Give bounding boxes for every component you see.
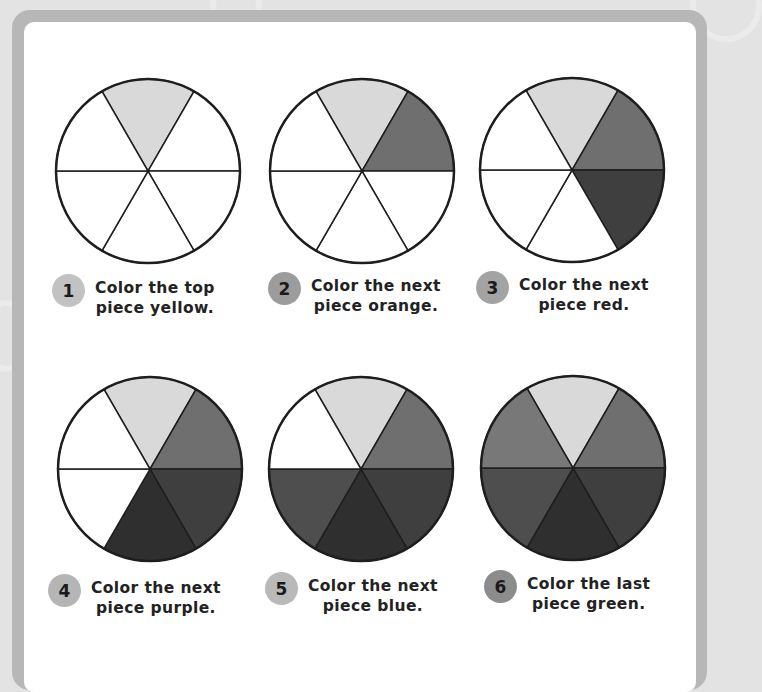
instruction-line-1: Color the next [519,275,649,295]
instruction-text: Color the next piece orange. [311,276,441,316]
color-wheel-1 [53,76,243,266]
instruction-line-2: piece red. [519,295,649,315]
color-wheel-4 [55,374,245,564]
instruction-line-2: piece blue. [308,596,438,616]
step-number-badge: 6 [484,570,517,603]
step-number-badge: 4 [48,574,81,607]
instruction-line-2: piece orange. [311,296,441,316]
step-number-badge: 1 [52,274,85,307]
step-2-caption: 2 Color the next piece orange. [268,272,441,316]
instruction-line-2: piece purple. [91,598,221,618]
color-wheel-6 [478,373,668,563]
instruction-line-1: Color the top [95,278,215,298]
step-3-caption: 3 Color the next piece red. [476,271,649,315]
instruction-text: Color the next piece red. [519,275,649,315]
step-number-badge: 2 [268,272,301,305]
instruction-text: Color the top piece yellow. [95,278,215,318]
instruction-text: Color the next piece purple. [91,578,221,618]
step-5-caption: 5 Color the next piece blue. [265,572,438,616]
step-4-caption: 4 Color the next piece purple. [48,574,221,618]
step-number-badge: 3 [476,271,509,304]
instruction-line-1: Color the next [308,576,438,596]
instruction-line-1: Color the next [311,276,441,296]
step-1-caption: 1 Color the top piece yellow. [52,274,215,318]
instruction-line-2: piece yellow. [95,298,215,318]
instruction-line-1: Color the next [91,578,221,598]
step-6-caption: 6 Color the last piece green. [484,570,650,614]
instruction-line-1: Color the last [527,574,650,594]
instruction-line-2: piece green. [527,594,650,614]
step-number-badge: 5 [265,572,298,605]
instruction-text: Color the next piece blue. [308,576,438,616]
color-wheel-2 [267,76,457,266]
instruction-text: Color the last piece green. [527,574,650,614]
color-wheel-5 [266,374,456,564]
color-wheel-3 [477,75,667,265]
